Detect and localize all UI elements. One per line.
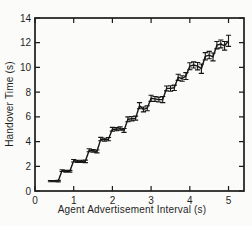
y-axis-label: Handover Time (s) bbox=[4, 61, 15, 147]
x-axis-label: Agent Advertisement Interval (s) bbox=[26, 204, 238, 215]
y-tick-label: 10 bbox=[20, 62, 32, 73]
y-tick-label: 0 bbox=[25, 186, 31, 197]
y-tick-label: 2 bbox=[25, 161, 31, 172]
y-tick-label: 6 bbox=[25, 111, 31, 122]
error-bars bbox=[48, 35, 231, 182]
handover-time-chart: 01234502468101214 bbox=[0, 0, 252, 226]
y-tick-label: 8 bbox=[25, 87, 31, 98]
y-tick-label: 12 bbox=[20, 37, 32, 48]
handover-time-figure: 01234502468101214 Handover Time (s) Agen… bbox=[0, 0, 252, 226]
y-tick-label: 14 bbox=[20, 13, 32, 24]
y-tick-label: 4 bbox=[25, 136, 31, 147]
